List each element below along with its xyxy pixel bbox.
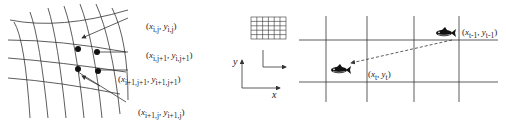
label-node-i-j1: (xi,j+1, yi,j+1) <box>146 51 193 62</box>
diagram-canvas <box>0 0 506 124</box>
node-i-j <box>75 46 81 52</box>
x-axis-label: x <box>272 89 276 100</box>
node-i1-j <box>75 66 81 72</box>
node-i-j1 <box>94 49 100 55</box>
curvilinear-mesh <box>8 4 128 118</box>
label-node-i-j: (xi,j, yi,j) <box>146 22 177 33</box>
y-axis-label: y <box>233 56 237 67</box>
label-fish-prev: (xt-1, yt-1) <box>462 28 497 39</box>
label-node-i1-j1: (xi+1,j+1, yi+1,j+1) <box>118 75 181 86</box>
mesh-nodes <box>75 46 101 74</box>
inner-axes <box>263 50 286 67</box>
small-grid <box>251 17 286 39</box>
movement-arrow <box>351 40 452 63</box>
label-node-i1-j: (xi+1,j, yi+1,j) <box>138 108 185 119</box>
fish-icon <box>331 64 351 74</box>
node-i1-j1 <box>95 68 101 74</box>
fish-icon <box>436 27 456 37</box>
pointer-arrow-ij <box>82 18 128 38</box>
label-fish-curr: (xt, yt) <box>368 70 391 81</box>
